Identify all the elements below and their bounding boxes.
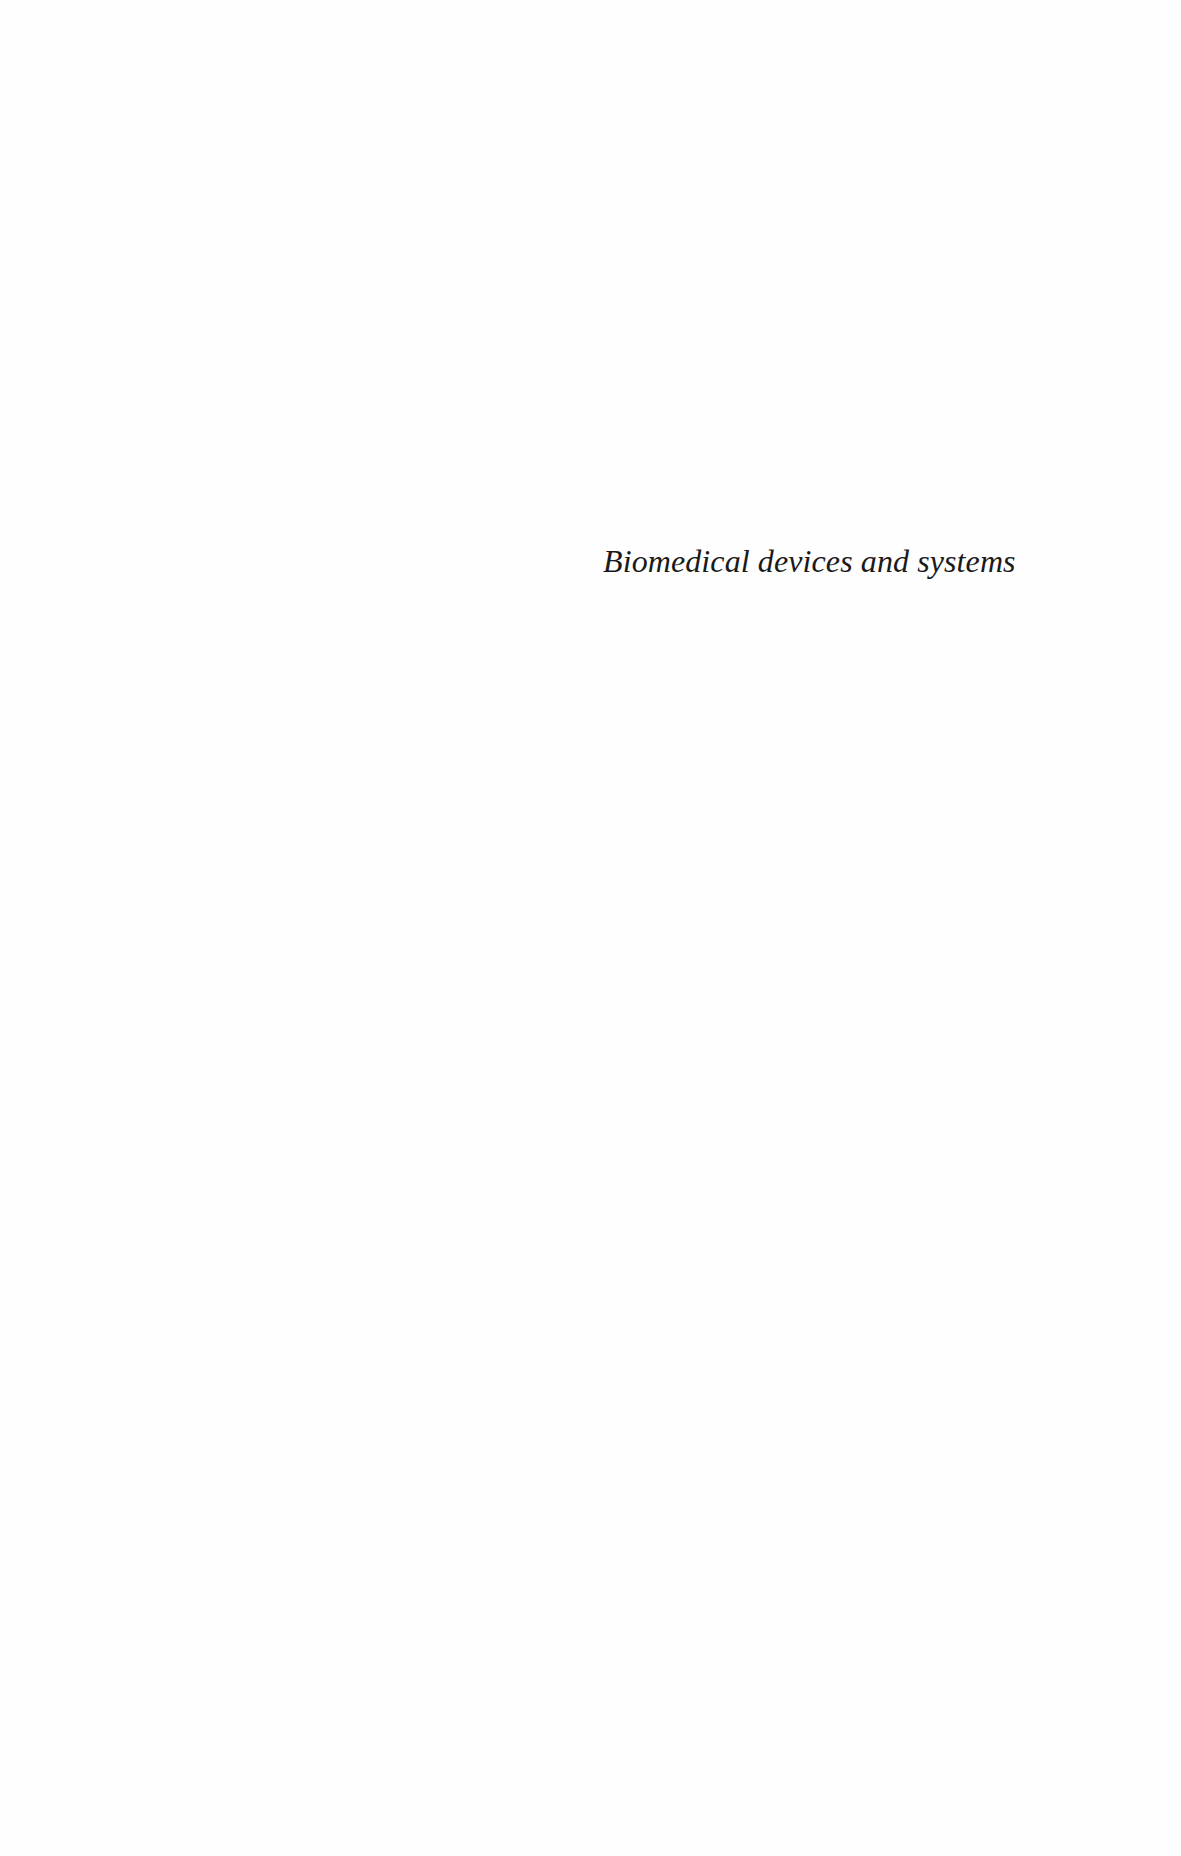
book-page: Biomedical devices and systems [0,0,1181,1856]
half-title: Biomedical devices and systems [603,541,1016,581]
